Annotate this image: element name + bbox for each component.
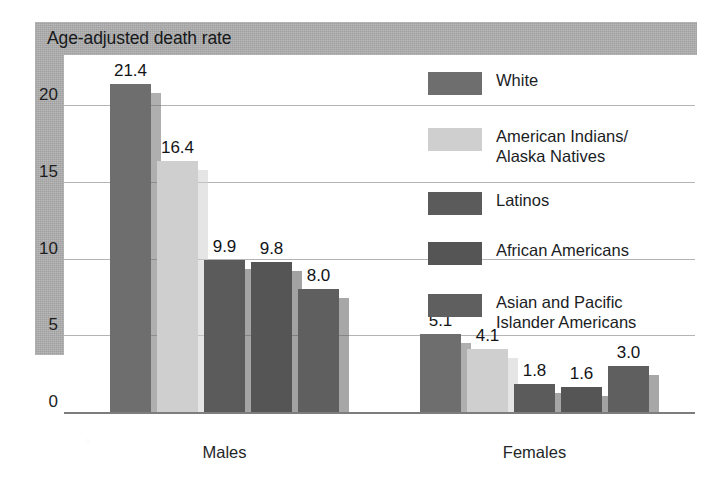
legend-item[interactable]: African Americans: [428, 242, 629, 265]
x-axis-baseline: [64, 412, 695, 414]
legend-swatch-icon: [428, 242, 482, 265]
bar-value-label: 21.4: [102, 61, 159, 81]
y-axis-tick-label: 15: [24, 162, 58, 182]
legend-item[interactable]: Asian and Pacific Islander Americans: [428, 294, 636, 332]
legend-label: Asian and Pacific Islander Americans: [496, 292, 636, 332]
bar[interactable]: [204, 260, 245, 412]
legend-label: White: [496, 70, 538, 90]
bar[interactable]: [251, 262, 292, 412]
y-axis-tick-label: 5: [24, 315, 58, 335]
legend-swatch-icon: [428, 128, 482, 151]
bar-value-label: 3.0: [600, 343, 657, 363]
chart-figure: Age-adjusted death rate 0510152021.416.4…: [0, 0, 728, 501]
group-label-males: Males: [155, 443, 295, 462]
bar-shadow: [649, 375, 659, 412]
legend-item[interactable]: American Indians/ Alaska Natives: [428, 128, 628, 166]
bar[interactable]: [157, 161, 198, 412]
legend-item[interactable]: Latinos: [428, 192, 549, 215]
bar[interactable]: [467, 349, 508, 412]
page-title: Age-adjusted death rate: [47, 28, 232, 49]
y-axis-tick-label: 20: [24, 85, 58, 105]
bar[interactable]: [561, 387, 602, 412]
bar-value-label: 8.0: [290, 266, 347, 286]
legend-swatch-icon: [428, 192, 482, 215]
bar-value-label: 9.8: [243, 239, 300, 259]
legend-item[interactable]: White: [428, 72, 538, 95]
bar[interactable]: [298, 289, 339, 412]
bar[interactable]: [514, 384, 555, 412]
bar[interactable]: [420, 334, 461, 412]
legend-label: Latinos: [496, 190, 549, 210]
bar[interactable]: [608, 366, 649, 412]
bar-value-label: 16.4: [149, 138, 206, 158]
y-axis-tick-label: 0: [24, 392, 58, 412]
legend-label: African Americans: [496, 240, 629, 260]
legend-swatch-icon: [428, 72, 482, 95]
y-axis-tick-label: 10: [24, 239, 58, 259]
legend-swatch-icon: [428, 294, 482, 317]
bar-value-label: 1.6: [553, 364, 610, 384]
bar-shadow: [339, 298, 349, 412]
group-label-females: Females: [465, 443, 605, 462]
bar[interactable]: [110, 84, 151, 412]
legend-label: American Indians/ Alaska Natives: [496, 126, 628, 166]
